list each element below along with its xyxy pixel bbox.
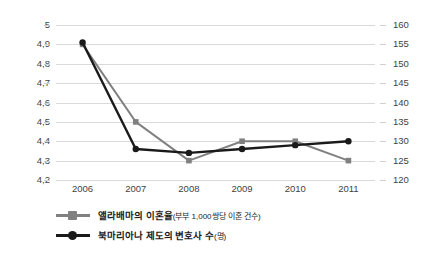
- data-point-circle: [292, 142, 298, 148]
- y-axis-right-tick: 120: [393, 175, 409, 185]
- legend-label-main: 북마리아나 제도의 변호사 수: [98, 230, 214, 241]
- y-axis-left-tick-mark: [44, 141, 50, 142]
- data-point-circle: [345, 138, 351, 144]
- x-axis: 200620072008200920102011: [56, 183, 375, 199]
- legend-label-main: 앨라배마의 이혼율: [98, 210, 173, 221]
- data-point-square: [239, 138, 245, 144]
- legend-label-sub: (부부 1,000쌍당 이혼 건수): [173, 212, 261, 221]
- y-axis-right-tick-mark: [380, 141, 386, 142]
- data-point-circle: [239, 146, 245, 152]
- data-point-square: [133, 119, 139, 125]
- legend-key-circle: [56, 229, 90, 241]
- y-axis-left-tick-mark: [44, 122, 50, 123]
- y-axis-right-tick-mark: [380, 103, 386, 104]
- plot-area: [56, 25, 375, 180]
- x-axis-tick: 2011: [338, 183, 358, 194]
- y-axis-right-tick: 160: [393, 20, 409, 30]
- y-axis-right: 160155150145140135130125120: [380, 20, 424, 185]
- square-marker-icon: [68, 211, 77, 220]
- data-point-circle: [79, 39, 85, 45]
- data-point-square: [346, 158, 352, 164]
- y-axis-left-tick-mark: [44, 25, 50, 26]
- y-axis-left-tick-mark: [44, 44, 50, 45]
- circle-marker-icon: [68, 231, 77, 240]
- x-axis-tick: 2008: [178, 183, 199, 194]
- y-axis-right-tick: 125: [393, 156, 409, 166]
- y-axis-left-tick-mark: [44, 64, 50, 65]
- y-axis-right-tick-mark: [380, 83, 386, 84]
- chart-legend: 앨라배마의 이혼율(부부 1,000쌍당 이혼 건수) 북마리아나 제도의 변호…: [56, 205, 386, 245]
- y-axis-right-tick: 155: [393, 39, 409, 49]
- x-axis-tick: 2007: [125, 183, 146, 194]
- legend-label-lawyer-count: 북마리아나 제도의 변호사 수(명): [98, 228, 226, 242]
- y-axis-left-tick-mark: [44, 83, 50, 84]
- legend-label-divorce-rate: 앨라배마의 이혼율(부부 1,000쌍당 이혼 건수): [98, 208, 261, 222]
- line-chart: 54,94,84,74,64,54,44,34,2 16015515014514…: [0, 0, 424, 259]
- gridline: [56, 180, 375, 181]
- y-axis-right-tick: 135: [393, 117, 409, 127]
- y-axis-left: 54,94,84,74,64,54,44,34,2: [0, 20, 50, 185]
- y-axis-right-tick-mark: [380, 180, 386, 181]
- data-point-circle: [186, 150, 192, 156]
- legend-item-divorce-rate[interactable]: 앨라배마의 이혼율(부부 1,000쌍당 이혼 건수): [56, 205, 386, 225]
- y-axis-right-tick-mark: [380, 161, 386, 162]
- y-axis-right-tick: 130: [393, 136, 409, 146]
- legend-label-sub: (명): [214, 232, 226, 241]
- y-axis-right-tick-mark: [380, 44, 386, 45]
- y-axis-left-tick-mark: [44, 161, 50, 162]
- x-axis-tick: 2010: [285, 183, 306, 194]
- y-axis-left-tick-mark: [44, 103, 50, 104]
- y-axis-left-tick-mark: [44, 180, 50, 181]
- y-axis-right-tick-mark: [380, 64, 386, 65]
- legend-item-lawyer-count[interactable]: 북마리아나 제도의 변호사 수(명): [56, 225, 386, 245]
- series-line: [83, 42, 349, 152]
- y-axis-right-tick: 145: [393, 78, 409, 88]
- y-axis-right-tick-mark: [380, 25, 386, 26]
- y-axis-right-tick: 150: [393, 59, 409, 69]
- series-layer: [56, 25, 375, 180]
- x-axis-tick: 2006: [72, 183, 93, 194]
- x-axis-tick: 2009: [232, 183, 253, 194]
- y-axis-right-tick-mark: [380, 122, 386, 123]
- data-point-square: [186, 158, 192, 164]
- legend-key-square: [56, 209, 90, 221]
- data-point-circle: [133, 146, 139, 152]
- y-axis-right-tick: 140: [393, 98, 409, 108]
